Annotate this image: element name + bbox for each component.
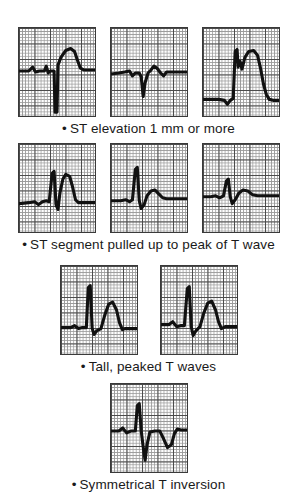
ecg-trace-path [111, 404, 187, 461]
ecg-figure-sheet: •ST elevation 1 mm or more •ST segment p… [0, 0, 297, 492]
ecg-row-tall-peaked-t [0, 265, 297, 355]
ecg-waveform [111, 384, 187, 472]
ecg-strip [202, 27, 280, 117]
ecg-strip [18, 27, 96, 117]
ecg-waveform [111, 144, 187, 232]
ecg-waveform [111, 28, 187, 116]
ecg-strip [160, 265, 238, 355]
ecg-waveform [203, 144, 279, 232]
ecg-row-symmetrical-t-inversion [0, 383, 297, 473]
caption-text: ST segment pulled up to peak of T wave [30, 237, 275, 252]
ecg-waveform [19, 144, 95, 232]
caption-text: Tall, peaked T waves [89, 359, 217, 374]
ecg-waveform [19, 28, 95, 116]
ecg-waveform [61, 266, 137, 354]
bullet-icon: • [72, 477, 77, 492]
bullet-icon: • [81, 359, 86, 375]
ecg-strip [110, 143, 188, 233]
ecg-waveform [203, 28, 279, 116]
ecg-strip [202, 143, 280, 233]
ecg-trace-path [203, 179, 279, 203]
ecg-strip [110, 383, 188, 473]
ecg-row-st-elevation [0, 27, 297, 117]
ecg-strip [110, 27, 188, 117]
ecg-row-st-pulled-up [0, 143, 297, 233]
caption-st-elevation: •ST elevation 1 mm or more [0, 121, 297, 137]
ecg-trace-path [203, 50, 279, 105]
ecg-waveform [161, 266, 237, 354]
ecg-trace-path [19, 171, 95, 209]
ecg-trace-path [111, 167, 187, 208]
caption-st-pulled-up: •ST segment pulled up to peak of T wave [0, 237, 297, 253]
ecg-trace-path [19, 49, 95, 113]
caption-tall-peaked-t: •Tall, peaked T waves [0, 359, 297, 375]
caption-text: Symmetrical T inversion [79, 477, 225, 492]
caption-text: ST elevation 1 mm or more [70, 121, 235, 136]
bullet-icon: • [62, 121, 67, 137]
ecg-strip [18, 143, 96, 233]
caption-symmetrical-t-inversion: •Symmetrical T inversion [0, 477, 297, 492]
ecg-strip [60, 265, 138, 355]
ecg-trace-path [111, 66, 187, 96]
ecg-trace-path [161, 287, 237, 336]
bullet-icon: • [22, 237, 27, 253]
ecg-trace-path [61, 286, 137, 335]
